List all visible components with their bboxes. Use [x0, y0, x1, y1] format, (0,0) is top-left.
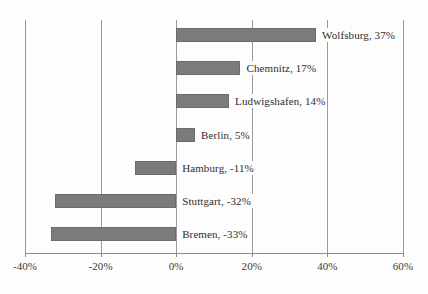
bar[interactable]: [51, 227, 176, 241]
bar-data-label: Bremen, -33%: [180, 227, 249, 241]
gridline: [252, 20, 253, 253]
x-axis-tick: [25, 253, 26, 257]
x-axis-tick: [252, 253, 253, 257]
x-axis-tick-label: 60%: [393, 260, 413, 272]
bar[interactable]: [55, 194, 176, 208]
bar[interactable]: [135, 161, 177, 175]
gridline: [327, 20, 328, 253]
bar-data-label: Berlin, 5%: [199, 128, 252, 142]
x-axis-line: [25, 253, 403, 254]
x-axis-tick-label: 40%: [317, 260, 337, 272]
x-axis-tick-label: 0%: [169, 260, 184, 272]
bar-data-label: Stuttgart, -32%: [180, 194, 253, 208]
bar[interactable]: [176, 128, 195, 142]
bar[interactable]: [176, 28, 316, 42]
x-axis-tick: [176, 253, 177, 257]
x-axis-tick-label: 20%: [242, 260, 262, 272]
bar[interactable]: [176, 61, 240, 75]
x-axis-tick-label: -20%: [88, 260, 112, 272]
x-axis-tick: [101, 253, 102, 257]
x-axis-tick-label: -40%: [13, 260, 37, 272]
bar[interactable]: [176, 94, 229, 108]
bar-data-label: Ludwigshafen, 14%: [233, 94, 327, 108]
gridline: [25, 20, 26, 253]
bar-data-label: Hamburg, -11%: [180, 161, 256, 175]
bar-data-label: Wolfsburg, 37%: [320, 28, 397, 42]
gridline: [403, 20, 404, 253]
x-axis-tick: [403, 253, 404, 257]
bar-chart: -40%-20%0%20%40%60% Wolfsburg, 37%Chemni…: [0, 0, 428, 294]
bar-data-label: Chemnitz, 17%: [244, 61, 318, 75]
gridline: [101, 20, 102, 253]
x-axis-tick: [327, 253, 328, 257]
